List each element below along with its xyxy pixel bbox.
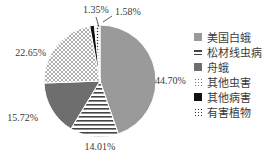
pie-slices [44,25,156,137]
legend-swatch-icon [194,78,202,86]
legend-item: 舟蛾 [194,59,262,74]
slice-label: 14.01% [85,141,116,152]
legend-swatch-icon [194,93,202,101]
legend-item: 美国白蛾 [194,29,262,44]
legend-label: 有害植物 [207,104,251,120]
chart-legend: 美国白蛾 松材线虫病 舟蛾 其他虫害 其他病害 有害植物 [194,29,262,119]
legend-label: 松材线虫病 [207,44,262,60]
legend-item: 有害植物 [194,104,262,119]
slice-label: 44.70% [155,75,186,86]
slice-label: 1.58% [115,6,141,17]
legend-swatch-icon [194,48,202,56]
slice-label: 1.35% [83,4,109,15]
legend-label: 舟蛾 [207,59,229,75]
slice-label: 15.72% [7,112,38,123]
legend-item: 其他虫害 [194,74,262,89]
slice-label: 22.65% [15,47,46,58]
legend-swatch-icon [194,63,202,71]
legend-label: 其他虫害 [207,74,251,90]
legend-item: 松材线虫病 [194,44,262,59]
legend-label: 其他病害 [207,89,251,105]
legend-label: 美国白蛾 [207,29,251,45]
legend-swatch-icon [194,108,202,116]
pie-chart: 44.70%14.01%15.72%22.65%1.35%1.58% [0,0,190,159]
legend-swatch-icon [194,33,202,41]
legend-item: 其他病害 [194,89,262,104]
